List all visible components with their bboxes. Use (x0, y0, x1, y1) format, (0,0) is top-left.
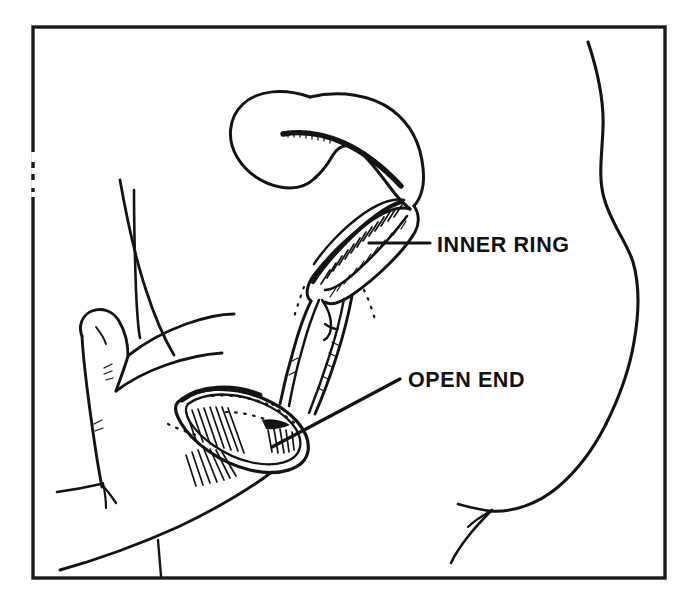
body-torso-curve (588, 42, 638, 424)
condom-sheath (272, 287, 376, 427)
hand-palm (57, 424, 272, 576)
diagram-canvas: INNER RING OPEN END (0, 0, 687, 608)
inner-ring-shape (307, 200, 418, 304)
body-thigh-curve (451, 424, 606, 563)
open-end-rim (176, 388, 309, 473)
label-open-end: OPEN END (408, 368, 525, 392)
figure-page: INNER RING OPEN END (0, 0, 687, 608)
border-frame (31, 27, 665, 578)
hand-finger (116, 180, 234, 391)
closed-end-loop (230, 92, 423, 209)
label-inner-ring: INNER RING (437, 233, 570, 257)
hand-thumb (80, 309, 128, 487)
